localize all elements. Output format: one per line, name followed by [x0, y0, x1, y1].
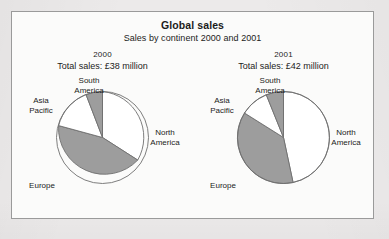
chart-year-label: 2001	[193, 50, 374, 59]
page-subtitle: Sales by continent 2000 and 2001	[12, 33, 373, 43]
chart-2001: 2001 Total sales: £42 million SouthAmeri…	[193, 50, 374, 218]
label-europe: Europe	[199, 181, 247, 191]
pie-area: SouthAmerica AsiaPacific NorthAmerica Eu…	[193, 76, 374, 218]
label-europe: Europe	[18, 181, 66, 191]
pie-area: SouthAmerica AsiaPacific NorthAmerica Eu…	[12, 76, 193, 218]
label-south-america: SouthAmerica	[239, 76, 301, 95]
chart-total-label: Total sales: £38 million	[12, 61, 193, 71]
label-south-america: SouthAmerica	[58, 76, 120, 95]
page-background: Global sales Sales by continent 2000 and…	[0, 0, 389, 239]
label-asia-pacific: AsiaPacific	[201, 96, 243, 115]
chart-total-label: Total sales: £42 million	[193, 61, 374, 71]
label-north-america: NorthAmerica	[321, 128, 371, 147]
chart-2000: 2000 Total sales: £38 million SouthAmeri…	[12, 50, 193, 218]
pie-chart-2001	[234, 88, 333, 187]
label-north-america: NorthAmerica	[140, 128, 190, 147]
label-asia-pacific: AsiaPacific	[20, 96, 62, 115]
chart-panel: Global sales Sales by continent 2000 and…	[11, 11, 374, 219]
page-title: Global sales	[12, 19, 373, 31]
pie-chart-2000	[53, 88, 152, 187]
chart-year-label: 2000	[12, 50, 193, 59]
